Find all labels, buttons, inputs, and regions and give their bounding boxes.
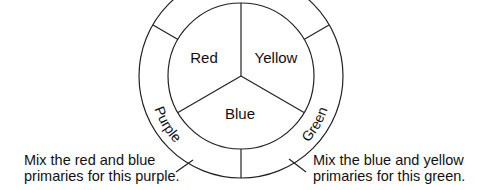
label-yellow: Yellow	[255, 49, 298, 66]
purple-caption: Mix the red and blue primaries for this …	[24, 152, 180, 184]
label-red: Red	[190, 49, 218, 66]
purple-caption-line1: Mix the red and blue	[24, 152, 180, 168]
green-caption-line1: Mix the blue and yellow	[313, 152, 465, 168]
green-caption: Mix the blue and yellow primaries for th…	[313, 152, 465, 184]
label-purple: Purple	[151, 104, 184, 145]
label-blue: Blue	[225, 105, 255, 122]
ring-divider-upper-left	[153, 25, 178, 40]
ring-divider-upper-right	[304, 25, 329, 40]
green-caption-line2: primaries for this green.	[313, 168, 465, 184]
label-green: Green	[298, 105, 330, 145]
purple-caption-line2: primaries for this purple.	[24, 168, 180, 184]
